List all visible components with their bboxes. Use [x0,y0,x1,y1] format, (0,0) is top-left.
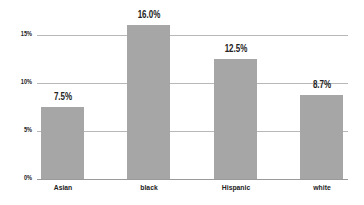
value-label: 12.5% [212,43,260,54]
bar-black [127,25,170,179]
x-tick-label: Asian [38,183,89,192]
value-label: 16.0% [125,9,173,20]
value-label: 7.5% [39,91,87,102]
y-tick-label: 10% [10,78,32,85]
x-tick-label: Hispanic [211,183,262,192]
y-tick-label: 15% [10,30,32,37]
y-tick-label: 0% [10,174,32,181]
bar-white [300,95,343,179]
x-tick-label: white [297,183,348,192]
gridline [37,35,348,36]
value-label: 8.7% [298,79,346,90]
y-tick-label: 5% [10,126,32,133]
x-axis-baseline [37,179,348,180]
x-tick-label: black [124,183,175,192]
bar-chart: 0%5%10%15%7.5%Asian16.0%black12.5%Hispan… [0,0,364,205]
bar-hispanic [214,59,257,179]
bar-asian [41,107,84,179]
